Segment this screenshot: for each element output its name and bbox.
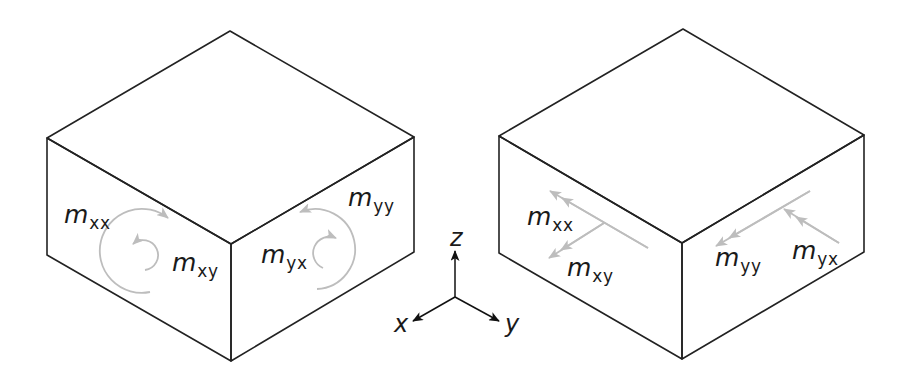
label-subscript: yx (286, 253, 307, 273)
coordinate-axes (413, 251, 499, 321)
label-base: m (567, 253, 591, 282)
label-base: m (527, 202, 551, 231)
label-base: m (172, 248, 196, 277)
myy-curved-arrow-icon (300, 209, 355, 289)
mxy-curved-arrow-icon (133, 240, 158, 270)
label-subscript: yy (740, 256, 761, 276)
label-mxx-left: mxx (64, 202, 110, 227)
label-base: m (348, 183, 372, 212)
label-mxy-right: mxy (567, 255, 613, 280)
label-subscript: xx (552, 215, 573, 235)
myy-vector-second-head-icon (729, 191, 810, 238)
axis-label-x: x (394, 312, 408, 336)
label-base: m (792, 236, 816, 265)
label-base: m (715, 243, 739, 272)
y-axis-arrow-icon (455, 297, 499, 321)
label-myx-right: myx (792, 238, 838, 263)
right-box-front-left-face (499, 136, 682, 359)
label-base: m (261, 240, 285, 269)
x-axis-arrow-icon (413, 297, 455, 321)
label-mxx-right: mxx (527, 204, 573, 229)
label-myx-left: myx (261, 242, 307, 267)
label-subscript: xx (89, 213, 110, 233)
myx-curved-arrow-icon (313, 237, 336, 268)
label-subscript: xy (197, 261, 218, 281)
diagram-canvas (0, 0, 909, 392)
label-myy-right: myy (715, 245, 761, 270)
label-myy-left: myy (348, 185, 394, 210)
left-box-front-right-face (231, 137, 414, 361)
label-subscript: yy (373, 196, 394, 216)
label-subscript: xy (592, 266, 613, 286)
axis-label-z: z (450, 226, 463, 250)
label-mxy-left: mxy (172, 250, 218, 275)
left-box-moment-arrows (100, 209, 355, 293)
axis-label-y: y (505, 312, 519, 336)
label-base: m (64, 200, 88, 229)
label-subscript: yx (817, 249, 838, 269)
